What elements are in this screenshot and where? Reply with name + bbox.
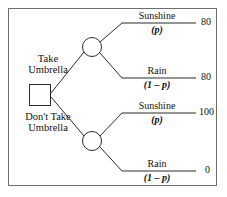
state-label-lower-sunshine: Sunshine	[126, 101, 188, 112]
state-label-upper-sunshine: Sunshine	[126, 11, 188, 22]
choice-dont-take-umbrella-line1: Don't Take	[13, 111, 83, 122]
choice-label-take-umbrella: Take Umbrella	[18, 53, 78, 76]
choice-dont-take-umbrella-line2: Umbrella	[13, 122, 83, 133]
payoff-lower-rain: 0	[205, 165, 225, 176]
decision-tree-diagram: Take Umbrella Don't Take Umbrella Sunshi…	[0, 0, 227, 197]
choice-take-umbrella-line1: Take	[18, 53, 78, 64]
payoff-upper-rain: 80	[201, 72, 225, 83]
choice-take-umbrella-line2: Umbrella	[18, 64, 78, 75]
choice-label-dont-take-umbrella: Don't Take Umbrella	[13, 111, 83, 134]
state-label-lower-rain: Rain	[126, 159, 188, 170]
probability-label-lower-rain: (1 – p)	[126, 173, 188, 184]
probability-label-upper-sunshine: (p)	[126, 25, 188, 36]
probability-label-lower-sunshine: (p)	[126, 115, 188, 126]
payoff-lower-sunshine: 100	[199, 107, 227, 118]
probability-label-upper-rain: (1 – p)	[126, 80, 188, 91]
payoff-upper-sunshine: 80	[201, 17, 225, 28]
state-label-upper-rain: Rain	[126, 66, 188, 77]
